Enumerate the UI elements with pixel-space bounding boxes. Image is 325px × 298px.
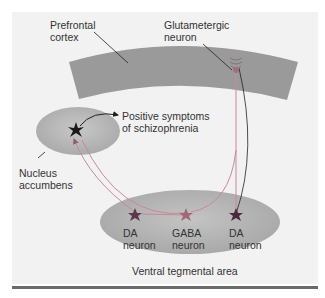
bottom-rule — [12, 286, 318, 289]
positive-symptoms-label: Positive symptoms of schizophrenia — [122, 110, 210, 134]
glutamatergic-neuron-label: Glutametergic neuron — [164, 19, 229, 43]
prefrontal-cortex-region — [69, 46, 298, 100]
prefrontal-cortex-label: Prefrontal cortex — [50, 19, 96, 43]
vta-label: Ventral tegmental area — [132, 265, 238, 277]
nucleus-accumbens-label: Nucleus accumbens — [19, 167, 73, 191]
da-neuron-right-label: DA neuron — [229, 227, 262, 251]
gaba-neuron-label: GABA neuron — [172, 227, 205, 251]
diagram-canvas — [0, 0, 325, 298]
da-neuron-left-label: DA neuron — [123, 227, 156, 251]
